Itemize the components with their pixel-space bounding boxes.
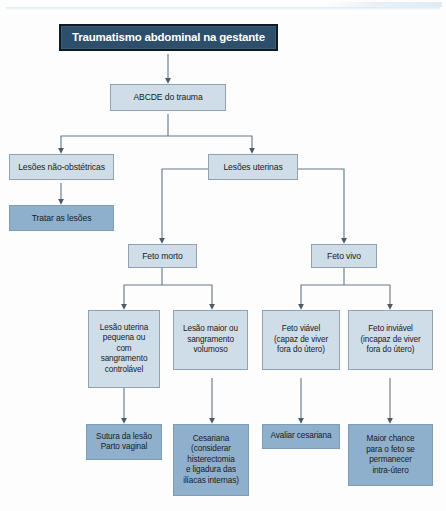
node-feto-morto-label: Feto morto [129,251,196,262]
node-maior-chance[interactable]: Maior chance para o feto se permanecer i… [348,424,433,486]
edge-fetovivo-inviavel [344,285,390,308]
node-lesao-uterina-pequena-label: Lesão uterina pequena ou com sangramento… [89,323,159,376]
node-feto-inviavel-label: Feto inviável (incapaz de viver fora do … [349,324,432,356]
node-maior-chance-label: Maior chance para o feto se permanecer i… [349,434,432,476]
node-sutura-parto[interactable]: Sutura da lesão Parto vaginal [86,424,162,460]
edge-fetovivo-viavel [301,285,344,308]
node-lesao-uterina-pequena[interactable]: Lesão uterina pequena ou com sangramento… [88,310,160,388]
node-lesoes-uterinas-label: Lesões uterinas [209,162,297,173]
edge-bus-right [168,136,252,152]
edge-fetomorto-pequena [124,285,162,308]
node-tratar-as-lesoes-label: Tratar as lesões [10,213,113,224]
edge-bus-left [61,136,168,152]
node-avaliar-cesariana[interactable]: Avaliar cesariana [262,424,340,449]
node-abcde-label: ABCDE do trauma [111,92,225,103]
node-lesoes-nao-obstetricas-label: Lesões não-obstétricas [10,162,113,173]
node-cesariana-label: Cesariana (considerar histerectomia e li… [174,434,248,487]
node-feto-inviavel[interactable]: Feto inviável (incapaz de viver fora do … [348,310,433,370]
node-avaliar-cesariana-label: Avaliar cesariana [263,431,339,442]
edge-uterinas-fetovivo [297,169,344,242]
node-lesoes-uterinas[interactable]: Lesões uterinas [208,154,298,180]
node-sutura-parto-label: Sutura da lesão Parto vaginal [87,432,161,453]
node-root-title-label: Traumatismo abdominal na gestante [61,30,276,45]
node-lesao-maior[interactable]: Lesão maior ou sangramento volumoso [173,310,248,370]
node-lesoes-nao-obstetricas[interactable]: Lesões não-obstétricas [9,154,114,180]
node-lesao-maior-label: Lesão maior ou sangramento volumoso [174,324,247,356]
node-feto-viavel-label: Feto viável (capaz de viver fora do úter… [263,324,339,356]
node-feto-viavel[interactable]: Feto viável (capaz de viver fora do úter… [262,310,340,370]
node-abcde[interactable]: ABCDE do trauma [110,84,226,111]
flowchart-page: Traumatismo abdominal na gestante ABCDE … [0,0,446,511]
edge-uterinas-fetomorto [162,169,208,242]
node-root-title[interactable]: Traumatismo abdominal na gestante [59,24,278,51]
node-cesariana[interactable]: Cesariana (considerar histerectomia e li… [173,424,249,496]
node-feto-vivo[interactable]: Feto vivo [311,244,377,268]
node-tratar-as-lesoes[interactable]: Tratar as lesões [9,205,114,231]
node-feto-morto[interactable]: Feto morto [128,244,197,268]
node-feto-vivo-label: Feto vivo [312,251,376,262]
edge-fetomorto-maior [162,285,212,308]
